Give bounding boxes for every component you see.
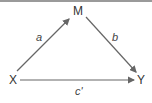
mediation-diagram: M X Y a b c'	[0, 0, 152, 103]
arrow-m-to-y	[86, 17, 136, 72]
node-x: X	[9, 74, 17, 86]
edge-label-c-prime: c'	[75, 86, 83, 97]
node-y: Y	[137, 74, 145, 86]
edge-label-b: b	[112, 32, 118, 43]
edge-label-a: a	[36, 32, 42, 43]
arrow-x-to-m	[17, 19, 69, 71]
node-m: M	[73, 5, 83, 17]
